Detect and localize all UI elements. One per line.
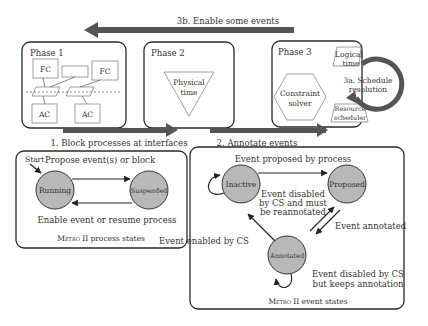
svg-text:time: time [181,88,199,97]
svg-text:Inactive: Inactive [226,180,257,189]
svg-text:Annotated: Annotated [269,252,304,260]
svg-text:scheduler: scheduler [334,114,367,122]
enable-events-arrow: 3b. Enable some events [84,16,294,38]
svg-text:3a. Schedule: 3a. Schedule [343,76,393,85]
phase1-title: Phase 1 [30,48,64,58]
process-states-panel: Start Propose event(s) or block Running … [16,151,187,248]
svg-text:but keeps annotation: but keeps annotation [312,279,404,289]
process-states-caption: Metro II process states [57,234,145,243]
svg-text:Physical: Physical [173,78,205,87]
svg-text:Running: Running [39,186,71,195]
metro-ii-diagram: 3b. Enable some events Phase 1 FC FC AC … [0,0,428,326]
svg-text:Constraint: Constraint [280,89,320,98]
start-label: Start [25,155,44,164]
phase2-title: Phase 2 [151,48,185,58]
phase3-title: Phase 3 [278,47,312,57]
svg-text:AC: AC [38,110,50,119]
svg-text:Proposed: Proposed [329,180,365,189]
block-processes-label: 1. Block processes at interfaces [51,138,188,148]
svg-text:solver: solver [288,99,311,108]
phase1-box: Phase 1 FC FC AC AC [22,42,126,128]
svg-text:be reannotated: be reannotated [260,207,326,217]
interface-right [66,87,94,96]
event-enabled-label: Event enabled by CS [159,236,249,246]
svg-text:AC: AC [81,110,93,119]
svg-text:time: time [343,59,361,68]
phase2-box: Phase 2 Physical time [144,42,234,128]
svg-text:Logical: Logical [335,50,363,59]
enable-event-label: Enable event or resume process [38,215,177,225]
propose-event-label: Propose event(s) or block [45,155,156,165]
enable-events-label: 3b. Enable some events [177,16,279,26]
svg-text:Suspended: Suspended [131,187,167,195]
svg-text:Event disabled by CS: Event disabled by CS [312,269,404,279]
event-annotated-label: Event annotated [335,221,407,231]
event-states-panel: Event proposed by process Inactive Propo… [159,147,407,309]
svg-text:FC: FC [100,67,111,76]
interface-left [32,87,60,96]
channel-box [62,66,88,77]
svg-text:resolution: resolution [349,85,388,94]
event-states-caption: Metro II event states [268,297,347,306]
event-proposed-label: Event proposed by process [235,154,351,164]
svg-text:FC: FC [40,65,51,74]
